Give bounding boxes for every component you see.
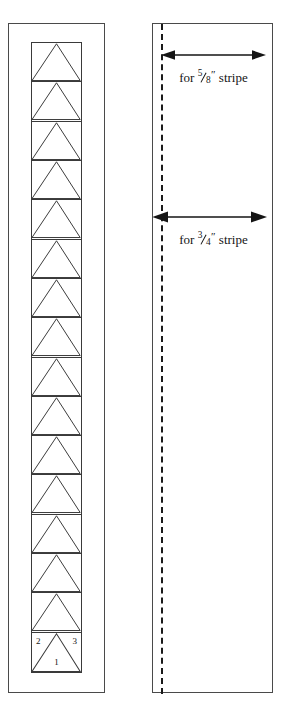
- pieced-strip-panel: 231: [8, 23, 105, 693]
- cell-label-right: 3: [73, 637, 78, 646]
- triangle-cell: 231: [32, 633, 81, 672]
- fraction-three-quarters: 34: [198, 232, 210, 246]
- triangle-cell: [32, 122, 81, 161]
- triangle-cell: [32, 554, 81, 593]
- half-square-triangle: [32, 515, 81, 553]
- fraction-denominator-4: 4: [206, 238, 211, 247]
- dimension-58-suffix: stripe: [219, 70, 248, 85]
- dimension-arrow-34: [153, 210, 274, 224]
- triangle-cell: [32, 475, 81, 514]
- triangle-cell: [32, 436, 81, 475]
- dimension-34-suffix: stripe: [219, 232, 248, 247]
- cell-label-left: 2: [36, 637, 41, 646]
- stripe-width-panel: for 58″ stripe for 34″ stripe: [152, 23, 273, 693]
- half-square-triangle: [32, 161, 81, 199]
- inch-mark-34: ″: [211, 230, 216, 242]
- half-square-triangle: [32, 593, 81, 631]
- fraction-five-eighths: 58: [198, 70, 210, 84]
- triangle-strip-column: 231: [31, 42, 82, 673]
- half-square-triangle: [32, 554, 81, 592]
- fraction-numerator-3: 3: [198, 231, 203, 240]
- half-square-triangle: [32, 397, 81, 435]
- half-square-triangle: [32, 358, 81, 396]
- triangle-cell: [32, 43, 81, 82]
- half-square-triangle: [32, 82, 81, 120]
- inch-mark-58: ″: [211, 68, 216, 80]
- figure-root: 231 for 58″ stripe for 34: [0, 0, 281, 717]
- half-square-triangle: [32, 436, 81, 474]
- half-square-triangle: [32, 200, 81, 238]
- dimension-arrow-58: [153, 48, 274, 62]
- triangle-cell: [32, 358, 81, 397]
- fraction-numerator-5: 5: [198, 69, 203, 78]
- triangle-cell: [32, 397, 81, 436]
- cell-label-center: 1: [32, 658, 81, 667]
- half-square-triangle: [32, 475, 81, 513]
- triangle-cell: [32, 279, 81, 318]
- triangle-cell: [32, 82, 81, 121]
- half-square-triangle: [32, 318, 81, 356]
- triangle-cell: [32, 515, 81, 554]
- fraction-denominator-8: 8: [206, 76, 211, 85]
- half-square-triangle: [32, 122, 81, 160]
- dimension-58-prefix: for: [179, 70, 194, 85]
- dimension-label-34: for 34″ stripe: [153, 230, 274, 248]
- dimension-label-58: for 58″ stripe: [153, 68, 274, 86]
- dimension-34-prefix: for: [179, 232, 194, 247]
- triangle-cell: [32, 200, 81, 239]
- half-square-triangle: [32, 240, 81, 278]
- half-square-triangle: [32, 43, 81, 81]
- triangle-cell: [32, 593, 81, 632]
- triangle-cell: [32, 240, 81, 279]
- half-square-triangle: [32, 279, 81, 317]
- triangle-cell: [32, 318, 81, 357]
- dashed-seam-guide-line: [161, 24, 163, 694]
- triangle-cell: [32, 161, 81, 200]
